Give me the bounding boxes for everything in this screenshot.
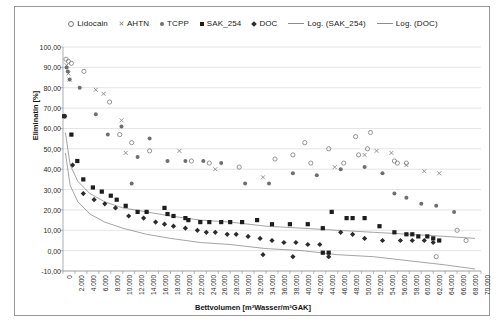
data-point-lidocain [291, 153, 295, 157]
x-tick-label: 28.000 [233, 275, 240, 295]
data-point-ahtn [102, 92, 106, 96]
data-point-lidocain [395, 161, 399, 165]
data-point-doc [102, 201, 107, 206]
x-tick-label: 4.000 [90, 275, 97, 291]
data-point-doc [305, 242, 310, 247]
data-point-sak-254 [124, 204, 128, 208]
y-tick-label: 90,00 [17, 64, 61, 71]
data-point-tcpp [106, 133, 110, 137]
x-tick-label: 54.000 [389, 275, 396, 295]
data-point-doc [281, 240, 286, 245]
data-point-doc [398, 238, 403, 243]
y-tick-label: 40,00 [17, 166, 61, 173]
x-tick-label: 6.000 [102, 275, 109, 291]
data-point-ahtn [363, 153, 367, 157]
data-point-tcpp [66, 69, 70, 73]
x-tick-label: 0 [66, 275, 73, 279]
data-point-doc [195, 228, 200, 233]
data-point-sak-254 [171, 214, 175, 218]
data-point-ahtn [124, 151, 128, 155]
data-point-doc [380, 238, 385, 243]
x-axis-ticks: 02.0004.0006.0008.00010.00012.00014.0001… [15, 7, 491, 47]
y-axis-ticks: 100,0090,0080,0070,0060,0050,0040,0030,0… [15, 7, 61, 317]
x-tick-label: 62.000 [436, 275, 443, 295]
x-tick-label: 20.000 [186, 275, 193, 295]
data-point-sak-254 [207, 220, 211, 224]
data-point-lidocain [118, 133, 122, 137]
data-point-sak-254 [100, 190, 104, 194]
x-tick-label: 34.000 [269, 275, 276, 295]
data-point-tcpp [434, 204, 438, 208]
data-point-doc [260, 252, 265, 257]
data-point-sak-254 [321, 251, 325, 255]
x-tick-label: 10.000 [126, 275, 133, 295]
x-tick-label: 60.000 [424, 275, 431, 295]
data-point-sak-254 [228, 220, 232, 224]
data-point-doc [225, 232, 230, 237]
data-point-tcpp [94, 112, 98, 116]
x-tick-label: 48.000 [353, 275, 360, 295]
data-point-sak-254 [392, 230, 396, 234]
data-point-doc [162, 222, 167, 227]
x-tick-label: 24.000 [210, 275, 217, 295]
data-point-tcpp [419, 202, 423, 206]
x-tick-label: 46.000 [341, 275, 348, 295]
x-tick-label: 22.000 [198, 275, 205, 295]
data-point-sak-254 [345, 216, 349, 220]
y-tick-label: -10,00 [17, 268, 61, 275]
data-point-ahtn [333, 165, 337, 169]
data-point-doc [290, 254, 295, 259]
data-point-doc [431, 240, 436, 245]
data-point-doc [234, 232, 239, 237]
x-tick-label: 52.000 [377, 275, 384, 295]
data-point-lidocain [207, 161, 211, 165]
chart-frame: LidocainAHTNTCPPSAK_254DOCLog. (SAK_254)… [14, 6, 490, 316]
data-point-ahtn [120, 118, 124, 122]
data-point-tcpp [183, 159, 187, 163]
data-point-doc [362, 236, 367, 241]
data-point-doc [126, 213, 131, 218]
data-point-sak-254 [377, 224, 381, 228]
y-tick-label: 70,00 [17, 105, 61, 112]
x-tick-label: 36.000 [281, 275, 288, 295]
data-point-tcpp [201, 159, 205, 163]
y-tick-label: 60,00 [17, 125, 61, 132]
data-point-doc [326, 254, 331, 259]
x-tick-label: 18.000 [174, 275, 181, 295]
data-point-sak-254 [321, 226, 325, 230]
y-tick-label: 30,00 [17, 186, 61, 193]
data-point-sak-254 [288, 222, 292, 226]
data-point-tcpp [148, 137, 152, 141]
data-point-sak-254 [410, 232, 414, 236]
data-point-sak-254 [363, 216, 367, 220]
data-point-sak-254 [416, 234, 420, 238]
data-point-doc [81, 191, 86, 196]
data-point-doc [92, 197, 97, 202]
data-point-tcpp [381, 171, 385, 175]
data-point-lidocain [108, 100, 112, 104]
data-point-sak-254 [81, 177, 85, 181]
x-tick-label: 26.000 [221, 275, 228, 295]
data-point-doc [141, 216, 146, 221]
data-point-lidocain [82, 69, 86, 73]
data-point-sak-254 [255, 218, 259, 222]
y-tick-label: 0,00 [17, 247, 61, 254]
data-point-tcpp [315, 173, 319, 177]
data-point-tcpp [65, 65, 69, 69]
data-point-lidocain [464, 238, 468, 242]
data-point-tcpp [404, 196, 408, 200]
data-point-sak-254 [306, 222, 310, 226]
data-point-sak-254 [219, 220, 223, 224]
data-point-lidocain [130, 141, 134, 145]
data-point-lidocain [357, 153, 361, 157]
plot-svg [15, 7, 491, 317]
x-tick-label: 64.000 [448, 275, 455, 295]
chart-screenshot: LidocainAHTNTCPPSAK_254DOCLog. (SAK_254)… [0, 0, 504, 330]
plot-container: Eliminatin [%] 100,0090,0080,0070,0060,0… [15, 7, 491, 317]
data-point-sak-254 [115, 198, 119, 202]
data-point-ahtn [437, 171, 441, 175]
data-point-ahtn [422, 169, 426, 173]
data-point-ahtn [375, 149, 379, 153]
data-point-tcpp [130, 181, 134, 185]
x-axis-title: Bettvolumen [m³Wasser/m³GAK] [15, 303, 491, 312]
